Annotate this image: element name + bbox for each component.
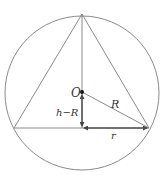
center-label: O	[71, 86, 81, 100]
diagram-canvas: O R h−R r	[0, 0, 160, 185]
radius-label: R	[110, 98, 119, 111]
base-half-label: r	[111, 130, 117, 141]
h-minus-r-label: h−R	[56, 107, 79, 118]
